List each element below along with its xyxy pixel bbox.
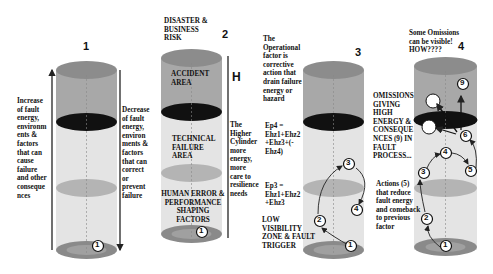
- cylinder-3-number: 3: [355, 46, 361, 58]
- ep3-equation: Ep3 = Ehz1+Ehz2 +Ehz3: [265, 182, 300, 208]
- technical-failure-label: TECHNICAL FAILURE AREA: [172, 135, 216, 161]
- actions-text: Actions (5) that reduce fault energy and…: [376, 180, 420, 232]
- cylinder-4: [414, 57, 478, 256]
- operational-factor-text: The Operational factor is corrective act…: [263, 35, 302, 104]
- marker-2-cyl4: 2: [424, 213, 428, 222]
- omissions-text: OMISSIONS GIVING HIGH ENERGY & CONSEQUE …: [373, 92, 414, 161]
- human-error-label: HUMAN ERROR & PERFORMANCE SHAPING FACTOR…: [160, 190, 226, 224]
- marker-4-cyl4: 4: [443, 147, 447, 156]
- marker-1-cyl3: 1: [348, 240, 352, 249]
- cylinder-1: [52, 61, 120, 259]
- marker-9-cyl4: 9: [460, 78, 464, 87]
- decrease-fault-energy-text: Decrease of fault energy, environ ments …: [122, 106, 149, 201]
- accident-area-label: ACCIDENT AREA: [171, 70, 209, 87]
- omissions-visible-title: Some Omissions can be visible! HOW????: [409, 29, 459, 55]
- marker-2-cyl3: 2: [317, 215, 321, 224]
- marker-6-cyl4: 6: [463, 130, 467, 139]
- height-label: H: [232, 70, 241, 84]
- low-visibility-label: LOW VISIBILITY ZONE & FAULT TRIGGER: [262, 216, 315, 250]
- increase-fault-energy-text: Increase of fault energy, environm ents …: [17, 97, 47, 200]
- marker-1-cyl4: 1: [443, 240, 447, 249]
- marker-5-cyl4: 5: [468, 165, 472, 174]
- marker-1-cyl2: 1: [199, 226, 203, 235]
- marker-1-cyl1: 1: [95, 240, 99, 249]
- disaster-title: DISASTER & BUSINESS RISK: [164, 17, 208, 43]
- marker-3-cyl4: 3: [421, 167, 425, 176]
- ep4-equation: Ep4 = Ehz1+Ehz2 +Ehz3+(- Ehz4): [265, 122, 300, 156]
- marker-4-cyl3: 4: [354, 204, 358, 213]
- cylinder-1-number: 1: [83, 40, 89, 52]
- cylinder-2-number: 2: [222, 28, 228, 40]
- marker-3-cyl3: 3: [346, 158, 350, 167]
- higher-cylinder-text: The Higher Cylinder more energy, more ca…: [230, 121, 259, 198]
